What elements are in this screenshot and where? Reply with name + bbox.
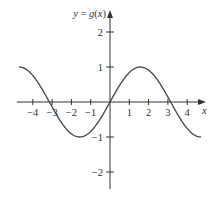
y-tick-label: −1 [92, 132, 103, 143]
x-tick-label: 3 [165, 107, 170, 118]
x-tick-label: 4 [185, 107, 191, 118]
y-tick-label: 1 [98, 62, 103, 73]
x-tick-label: −4 [27, 107, 39, 118]
x-tick-label: −1 [85, 107, 96, 118]
y-axis-label: y = g(x) [72, 8, 106, 20]
function-graph: −4−3−2−1123421−1−2 y = g(x) x [0, 0, 218, 198]
y-axis-arrow-icon [107, 10, 113, 18]
x-tick-label: −3 [47, 107, 58, 118]
x-axis-label: x [201, 105, 207, 116]
x-tick-label: −2 [66, 107, 77, 118]
x-tick-label: 1 [127, 107, 132, 118]
x-tick-label: 2 [146, 107, 151, 118]
y-tick-label: 2 [98, 27, 103, 38]
y-tick-label: −2 [92, 167, 103, 178]
